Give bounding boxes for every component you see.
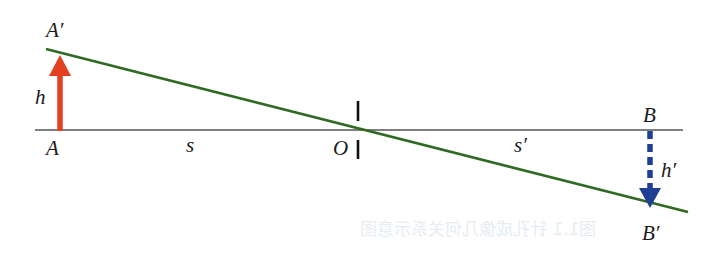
ray-diagram: A′ h A s O s′ B h′ B′ [0, 0, 711, 254]
label-object-height: h [35, 85, 46, 109]
label-object-top: A′ [44, 18, 64, 42]
label-image-height: h′ [661, 158, 677, 182]
label-image-distance: s′ [514, 133, 527, 157]
label-lens-center: O [333, 136, 348, 160]
image-arrow [639, 131, 661, 208]
label-image-base: B [643, 103, 656, 127]
label-object-base: A [44, 136, 59, 160]
label-object-distance: s [186, 133, 194, 157]
label-image-top: B′ [642, 221, 660, 245]
object-arrow [49, 55, 71, 131]
